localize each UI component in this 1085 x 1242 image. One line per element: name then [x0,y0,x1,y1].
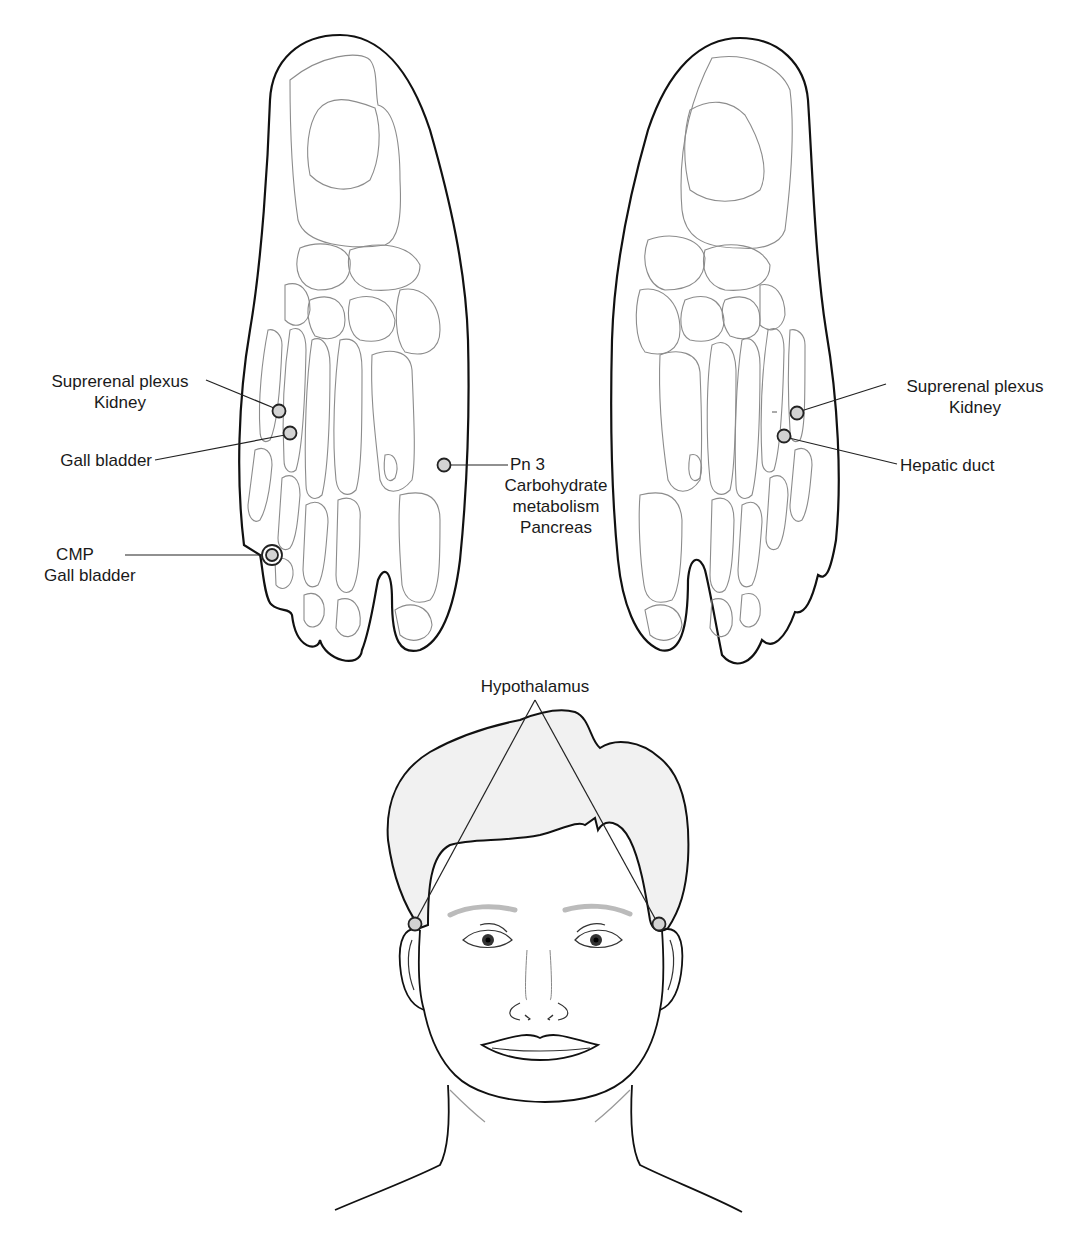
label-hypothalamus: Hypothalamus [460,676,610,697]
point-gall-bladder-left [284,427,297,440]
point-cmp-gall-bladder [266,549,278,561]
point-pn3-pancreas [438,459,451,472]
label-suprerenal-kidney-right: Suprerenal plexus Kidney [885,376,1065,418]
label-line: Kidney [885,397,1065,418]
label-cmp-gall-bladder: CMP Gall bladder [30,544,160,586]
reflex-points-illustration [0,0,1085,1242]
left-foot [239,35,468,661]
point-hypothalamus-left [409,918,422,931]
label-line: Pn 3 [496,454,616,475]
label-line: metabolism [496,496,616,517]
label-line: CMP [30,544,160,565]
label-line: Suprerenal plexus [885,376,1065,397]
point-hypothalamus-right [653,918,666,931]
label-line: Pancreas [496,517,616,538]
point-hepatic-duct [778,430,791,443]
label-line: Hypothalamus [460,676,610,697]
label-line: Suprerenal plexus [30,371,210,392]
label-line: Carbohydrate [496,475,616,496]
label-pn3-pancreas: Pn 3 Carbohydrate metabolism Pancreas [496,454,616,538]
point-suprerenal-kidney-right [791,407,804,420]
right-foot [611,38,839,663]
label-line: Hepatic duct [900,455,1040,476]
face-illustration [335,700,742,1212]
point-suprerenal-kidney-left [273,405,286,418]
label-hepatic-duct: Hepatic duct [900,455,1040,476]
label-line: Gall bladder [30,565,160,586]
label-suprerenal-kidney-left: Suprerenal plexus Kidney [30,371,210,413]
label-line: Gall bladder [30,450,152,471]
label-gall-bladder-left: Gall bladder [30,450,152,471]
label-line: Kidney [30,392,210,413]
